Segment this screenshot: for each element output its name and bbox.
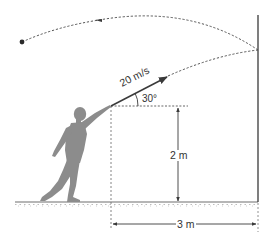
return-trajectory	[22, 16, 258, 50]
diagram-canvas	[0, 0, 273, 242]
angle-label: 30°	[142, 94, 157, 104]
projectile-diagram: 20 m/s 30° 2 m 3 m	[0, 0, 273, 242]
angle-arc	[135, 93, 138, 106]
thrower-silhouette	[40, 105, 111, 202]
ground	[15, 202, 258, 206]
ball	[20, 40, 25, 45]
height-label: 2 m	[169, 150, 189, 161]
outgoing-trajectory	[168, 50, 258, 76]
distance-label: 3 m	[176, 219, 196, 230]
